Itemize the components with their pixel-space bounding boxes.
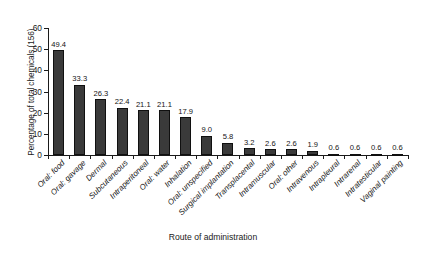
x-tick [302, 155, 303, 159]
y-tick-label: 30 [24, 88, 42, 96]
x-tick [112, 155, 113, 159]
bar-value-label: 49.4 [46, 41, 72, 49]
bar-value-label: 17.9 [173, 108, 199, 116]
bar-value-label: 33.3 [67, 75, 93, 83]
bar[interactable] [392, 154, 403, 156]
y-tick [44, 113, 48, 114]
bar[interactable] [138, 110, 149, 155]
bar[interactable] [350, 154, 361, 156]
x-tick [366, 155, 367, 159]
bar[interactable] [244, 148, 255, 155]
x-tick [154, 155, 155, 159]
y-tick-label: 60 [24, 24, 42, 32]
bar[interactable] [307, 151, 318, 155]
x-tick [196, 155, 197, 159]
x-tick [281, 155, 282, 159]
x-tick [90, 155, 91, 159]
bar[interactable] [95, 99, 106, 155]
bar[interactable] [180, 117, 191, 155]
bar-value-label: 26.3 [88, 90, 114, 98]
x-tick [133, 155, 134, 159]
bar[interactable] [53, 50, 64, 155]
x-tick [175, 155, 176, 159]
x-tick [239, 155, 240, 159]
y-tick-label: 10 [24, 130, 42, 138]
bar-value-label: 0.6 [384, 144, 410, 152]
y-tick [44, 49, 48, 50]
y-tick [44, 134, 48, 135]
x-tick [344, 155, 345, 159]
bar[interactable] [286, 149, 297, 155]
bar[interactable] [159, 110, 170, 155]
bar[interactable] [328, 154, 339, 156]
bar[interactable] [74, 85, 85, 155]
plot-area: 0102030405060 49.433.326.322.421.121.117… [48, 28, 408, 155]
bar[interactable] [222, 143, 233, 155]
bar-chart-figure: Percentage of total chemicals (156) 0102… [0, 0, 426, 255]
x-tick [387, 155, 388, 159]
y-tick-label: 20 [24, 109, 42, 117]
bar[interactable] [117, 108, 128, 155]
bar[interactable] [201, 136, 212, 155]
x-tick [217, 155, 218, 159]
x-tick [48, 155, 49, 159]
y-tick-label: 0 [24, 151, 42, 159]
y-tick-label: 50 [24, 45, 42, 53]
bar[interactable] [371, 154, 382, 156]
y-tick [44, 92, 48, 93]
bar[interactable] [265, 149, 276, 155]
y-tick-label: 40 [24, 66, 42, 74]
x-tick [323, 155, 324, 159]
x-tick [260, 155, 261, 159]
x-axis-title: Route of administration [0, 233, 426, 242]
y-tick [44, 70, 48, 71]
x-tick [69, 155, 70, 159]
x-tick [408, 155, 409, 159]
y-tick [44, 28, 48, 29]
